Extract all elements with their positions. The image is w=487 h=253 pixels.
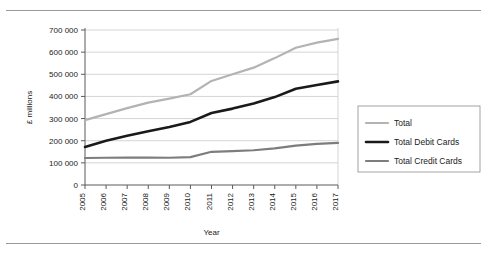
chart-svg: 0100 000200 000300 000400 000500 000600 … <box>0 14 487 240</box>
x-axis-tick-label: 2012 <box>226 192 235 210</box>
x-axis-tick-label: 2013 <box>247 192 256 210</box>
x-axis-tick-labels-group: 2005200620072008200920102011201220132014… <box>78 192 340 210</box>
figure-container: 0100 000200 000300 000400 000500 000600 … <box>0 0 487 253</box>
x-axis-tick-label: 2015 <box>289 192 298 210</box>
y-axis-tick-label: 500 000 <box>49 70 78 79</box>
x-axis-title: Year <box>203 228 220 237</box>
y-axis-tick-label: 0 <box>74 181 79 190</box>
x-axis-ticks-group <box>85 185 338 189</box>
x-axis-tick-label: 2009 <box>162 192 171 210</box>
x-axis-tick-label: 2008 <box>141 192 150 210</box>
x-axis-tick-label: 2007 <box>120 192 129 210</box>
y-axis-ticks-group <box>81 30 85 185</box>
x-axis-tick-label: 2010 <box>183 192 192 210</box>
bottom-divider-rule <box>6 243 481 244</box>
top-divider-rule <box>6 10 481 11</box>
data-series-group <box>85 39 338 158</box>
series-line-total-credit-cards <box>85 143 338 158</box>
x-axis-tick-label: 2011 <box>205 192 214 210</box>
gridlines-group <box>85 30 338 163</box>
x-axis-tick-label: 2006 <box>99 192 108 210</box>
y-axis-tick-label: 100 000 <box>49 159 78 168</box>
y-axis-tick-label: 600 000 <box>49 48 78 57</box>
x-axis-tick-label: 2017 <box>331 192 340 210</box>
series-line-total <box>85 39 338 120</box>
y-axis-tick-label: 700 000 <box>49 26 78 35</box>
series-line-total-debit-cards <box>85 81 338 147</box>
x-axis-tick-label: 2005 <box>78 192 87 210</box>
line-chart: 0100 000200 000300 000400 000500 000600 … <box>0 14 487 240</box>
y-axis-tick-label: 400 000 <box>49 92 78 101</box>
y-axis-title: £ millions <box>25 91 34 124</box>
x-axis-tick-label: 2014 <box>268 192 277 210</box>
legend-label: Total Debit Cards <box>394 137 459 147</box>
y-axis-tick-labels-group: 0100 000200 000300 000400 000500 000600 … <box>49 26 78 190</box>
y-axis-tick-label: 200 000 <box>49 137 78 146</box>
legend-label: Total <box>394 118 412 128</box>
legend-label: Total Credit Cards <box>394 156 462 166</box>
y-axis-tick-label: 300 000 <box>49 115 78 124</box>
x-axis-tick-label: 2016 <box>310 192 319 210</box>
chart-legend: TotalTotal Debit CardsTotal Credit Cards <box>358 106 480 172</box>
axis-lines-group <box>85 28 338 185</box>
